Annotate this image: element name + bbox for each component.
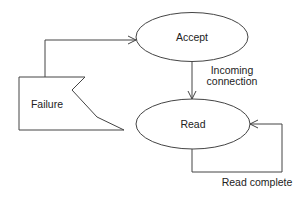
state-diagram: Accept Read Failure Incoming connection … [0,0,303,198]
edge-accept-to-read: Incoming connection [192,62,258,100]
node-failure[interactable]: Failure [19,77,124,130]
diagram-canvas: Accept Read Failure Incoming connection … [0,0,303,198]
edge-failure-to-accept [45,40,136,77]
edge-label-connection: connection [207,75,258,87]
node-read-label: Read [180,118,205,130]
node-accept[interactable]: Accept [136,13,248,62]
edge-label-read-complete: Read complete [222,176,293,188]
node-read[interactable]: Read [136,99,250,149]
node-failure-label: Failure [31,98,63,110]
node-accept-label: Accept [176,31,208,43]
